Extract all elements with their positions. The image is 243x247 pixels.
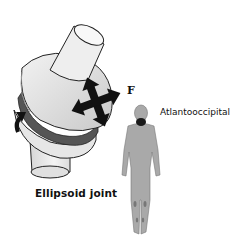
movement-marker-label: F xyxy=(127,84,135,97)
atlantooccipital-label: Atlantooccipital xyxy=(160,107,230,117)
atlantooccipital-highlight xyxy=(136,118,146,126)
ellipsoid-joint-label: Ellipsoid joint xyxy=(35,187,117,199)
ellipsoid-joint-illustration xyxy=(0,0,243,247)
diagram-canvas: F Atlantooccipital Ellipsoid joint xyxy=(0,0,243,247)
